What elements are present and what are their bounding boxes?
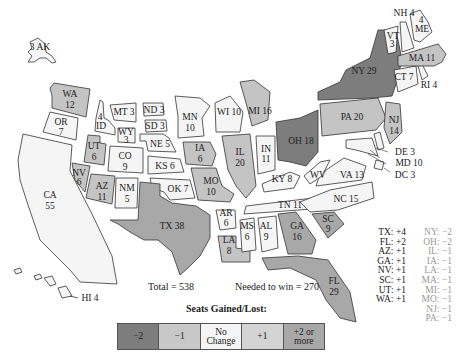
label-KY: KY 8: [272, 174, 293, 184]
total-electoral-votes: Total = 538: [148, 281, 194, 292]
label-OR: OR: [54, 117, 68, 127]
label-NE: NE 5: [150, 139, 170, 149]
label-AR: AR: [219, 208, 233, 218]
label-MO-votes: 10: [206, 187, 216, 197]
label-IL: IL: [236, 147, 245, 157]
label-WI: WI 10: [217, 107, 241, 117]
label-AL-votes: 9: [264, 232, 269, 242]
label-TX: TX 38: [160, 221, 185, 231]
label-SC-votes: 9: [326, 224, 331, 234]
label-MD: MD 10: [395, 158, 422, 168]
label-HI: HI 4: [81, 293, 98, 303]
label-DC: DC 3: [395, 170, 416, 180]
seat-gains-list: TX: +4 FL: +2 AZ: +1 GA: +1 NV: +1 SC: +…: [362, 228, 406, 305]
gain-item: WA: +1: [362, 295, 406, 305]
label-TN: TN 11: [278, 200, 302, 210]
label-WV: WV: [310, 170, 326, 180]
label-CO-votes: 9: [123, 162, 128, 172]
label-SD: SD 3: [145, 121, 165, 131]
label-SC: SC: [322, 214, 334, 224]
label-IL-votes: 20: [235, 158, 245, 168]
label-VA: VA 13: [340, 170, 364, 180]
state-DC: [374, 160, 384, 170]
needed-to-win: Needed to win = 270: [235, 281, 319, 292]
label-MN: MN: [182, 112, 197, 122]
legend-swatch-no-change: No Change: [201, 324, 242, 349]
label-AK: 3 AK: [30, 42, 50, 52]
label-CT: CT 7: [394, 72, 413, 82]
loss-item: PA: −1: [408, 314, 452, 324]
legend-swatch-plus2: +2 or more: [284, 324, 324, 349]
label-NV-votes: 6: [77, 177, 82, 187]
label-IN: IN: [261, 144, 271, 154]
label-NJ: NJ: [389, 115, 400, 125]
label-AZ-votes: 11: [97, 192, 106, 202]
state-RI: [418, 64, 428, 80]
legend-swatch-plus1: +1: [242, 324, 283, 349]
label-FL-votes: 29: [329, 287, 339, 297]
label-GA: GA: [290, 221, 304, 231]
label-OH: OH 18: [288, 136, 314, 146]
label-LA: LA: [223, 235, 236, 245]
label-AL: AL: [260, 221, 273, 231]
label-OR-votes: 7: [59, 127, 64, 137]
seat-losses-list: NY: −2 OH: −2 IL: −1 IA: −1 LA: −1 MA: −…: [408, 228, 452, 324]
label-VT-votes: 3: [390, 39, 395, 49]
label-MA: MA 11: [409, 53, 436, 63]
label-IA-votes: 6: [198, 154, 203, 164]
label-CO: CO: [118, 151, 131, 161]
label-FL: FL: [328, 276, 339, 286]
label-WA-votes: 12: [65, 100, 75, 110]
label-DE: DE 3: [395, 147, 415, 157]
label-NH: NH 4: [394, 8, 415, 18]
label-NY: NY 29: [351, 66, 376, 76]
label-PA: PA 20: [341, 112, 364, 122]
label-AR-votes: 6: [224, 218, 229, 228]
label-MS: MS: [240, 221, 254, 231]
label-IA: IA: [195, 143, 205, 153]
label-UT: UT: [88, 141, 101, 151]
label-AZ: AZ: [96, 181, 109, 191]
label-NM: NM: [119, 183, 135, 193]
label-NC: NC 15: [333, 194, 358, 204]
legend-swatch-minus2: −2: [118, 324, 159, 349]
label-UT-votes: 6: [92, 152, 97, 162]
legend-title: Seats Gained/Lost:: [186, 303, 267, 314]
label-CA: CA: [43, 190, 56, 200]
label-NJ-votes: 14: [389, 126, 399, 136]
label-OK: OK 7: [168, 184, 189, 194]
label-NM-votes: 5: [125, 194, 130, 204]
label-WY-votes: 3: [124, 135, 129, 145]
label-LA-votes: 8: [227, 246, 232, 256]
label-ND: ND 3: [144, 105, 165, 115]
label-MN-votes: 10: [185, 123, 195, 133]
legend: −2 −1 No Change +1 +2 or more: [117, 323, 325, 350]
label-IN-votes: 11: [261, 154, 270, 164]
label-MO: MO: [203, 176, 218, 186]
label-KS: KS 6: [155, 161, 175, 171]
label-GA-votes: 16: [292, 232, 302, 242]
label-WA: WA: [63, 89, 78, 99]
state-MI: [240, 80, 270, 126]
label-ID: ID: [96, 121, 106, 131]
label-CA-votes: 55: [45, 201, 55, 211]
label-MI: MI 16: [248, 106, 272, 116]
state-MD: [346, 138, 378, 156]
state-HI: [14, 268, 78, 298]
label-ME: ME: [415, 24, 429, 34]
label-MT: MT 3: [113, 107, 134, 117]
legend-swatch-minus1: −1: [159, 324, 200, 349]
label-RI: RI 4: [421, 80, 438, 90]
label-MS-votes: 6: [245, 232, 250, 242]
